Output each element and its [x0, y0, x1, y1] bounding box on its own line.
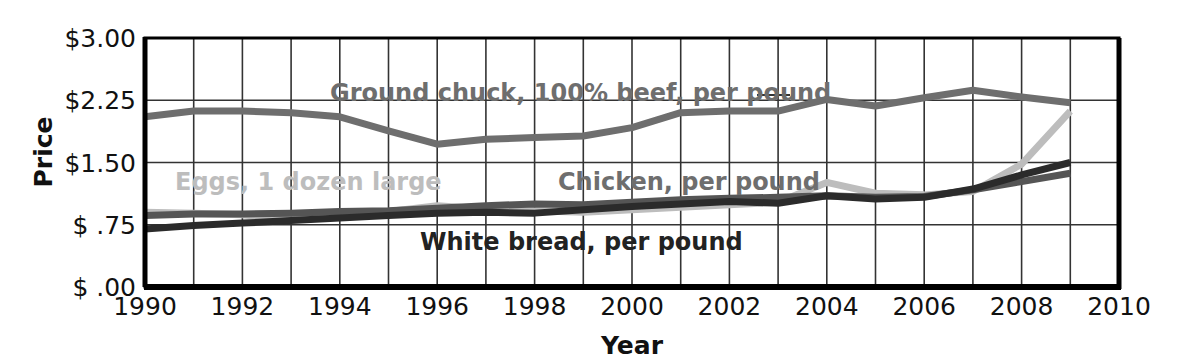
series-label-eggs: Eggs, 1 dozen large	[175, 168, 442, 196]
x-tick-label: 1996	[405, 292, 469, 321]
chart-canvas: $3.00$2.25$1.50$ .75$ .00199019921994199…	[0, 0, 1194, 361]
x-tick-label: 1992	[211, 292, 275, 321]
y-tick-label: $1.50	[64, 149, 136, 178]
x-tick-label: 2010	[1087, 292, 1151, 321]
x-tick-label: 1990	[113, 292, 177, 321]
series-layer	[145, 90, 1070, 229]
series-label-white-bread: White bread, per pound	[420, 228, 743, 256]
y-axis-title: Price	[29, 117, 58, 188]
x-axis-title: Year	[600, 331, 664, 360]
x-tick-label: 1994	[308, 292, 372, 321]
x-tick-label: 2002	[698, 292, 762, 321]
x-tick-label: 2008	[990, 292, 1054, 321]
price-line-chart: $3.00$2.25$1.50$ .75$ .00199019921994199…	[0, 0, 1194, 361]
x-tick-label: 2006	[892, 292, 956, 321]
x-tick-label: 2004	[795, 292, 859, 321]
y-tick-label: $3.00	[64, 24, 136, 53]
series-label-chicken: Chicken, per pound	[558, 168, 820, 196]
x-tick-label: 1998	[503, 292, 567, 321]
y-tick-label: $ .75	[72, 211, 136, 240]
x-tick-label: 2000	[600, 292, 664, 321]
y-tick-label: $2.25	[64, 86, 136, 115]
series-annotations: Ground chuck, 100% beef, per poundEggs, …	[175, 79, 831, 256]
series-label-ground-chuck: Ground chuck, 100% beef, per pound	[330, 79, 831, 107]
